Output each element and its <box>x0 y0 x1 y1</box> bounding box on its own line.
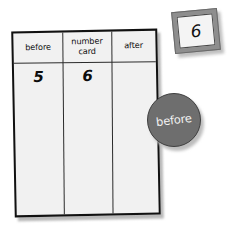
worksheet-canvas: before number card after 5 6 6 befor <box>0 0 234 227</box>
table-value-row: 5 6 <box>14 62 156 91</box>
table-board: before number card after 5 6 <box>11 29 161 218</box>
sorting-table: before number card after 5 6 <box>11 29 161 218</box>
cell-number-card-value[interactable]: 6 <box>63 62 112 89</box>
before-token[interactable]: before <box>147 93 201 147</box>
column-header-after: after <box>111 31 156 62</box>
column-header-before: before <box>13 32 63 63</box>
before-token-circle[interactable]: before <box>147 93 201 147</box>
number-card-face: 6 <box>177 13 216 48</box>
cell-before-value[interactable]: 5 <box>14 63 63 90</box>
before-token-label: before <box>155 111 192 129</box>
column-header-number-card: number card <box>62 31 112 62</box>
cell-after-value[interactable] <box>112 62 156 89</box>
number-card-frame: 6 <box>171 8 221 54</box>
number-card[interactable]: 6 <box>171 8 221 54</box>
number-card-value: 6 <box>190 21 203 42</box>
table-header-row: before number card after <box>13 31 156 64</box>
